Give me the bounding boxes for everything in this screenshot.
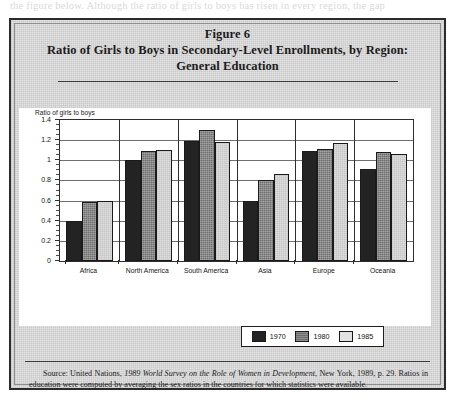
y-axis-minor-tick xyxy=(56,134,59,135)
bar-south-america-1980 xyxy=(199,130,215,261)
source-note: Source: United Nations, 1989 World Surve… xyxy=(29,368,428,390)
bar-africa-1980 xyxy=(82,202,98,261)
y-axis-minor-tick xyxy=(56,225,59,226)
bar-europe-1985 xyxy=(333,143,349,261)
figure-title-block: Figure 6 Ratio of Girls to Boys in Secon… xyxy=(11,26,444,82)
bar-europe-1970 xyxy=(302,151,318,261)
y-axis-tick-mark xyxy=(55,179,59,180)
y-axis-tick-label: 1.2 xyxy=(19,136,55,143)
y-axis-tick-label: 0.2 xyxy=(19,236,55,243)
legend-item-1970: 1970 xyxy=(252,331,286,342)
page-bleed-text: the figure below. Although the ratio of … xyxy=(10,0,445,14)
category-separator xyxy=(354,120,355,261)
title-divider xyxy=(58,81,398,82)
bar-asia-1985 xyxy=(274,174,290,261)
x-axis-category-label: South America xyxy=(184,267,228,274)
y-axis-minor-tick xyxy=(56,235,59,236)
legend-swatch-1980 xyxy=(295,331,309,342)
x-axis-category-label: Africa xyxy=(80,267,97,274)
y-axis-tick-label: 0.6 xyxy=(19,196,55,203)
bar-oceania-1980 xyxy=(376,152,392,261)
bar-south-america-1985 xyxy=(215,142,231,261)
y-axis-minor-tick xyxy=(56,124,59,125)
y-axis-tick-mark xyxy=(55,240,59,241)
legend-label-1985: 1985 xyxy=(357,332,373,341)
y-axis-tick-label: 0.8 xyxy=(19,176,55,183)
bar-oceania-1985 xyxy=(391,154,407,261)
y-axis-minor-tick xyxy=(56,144,59,145)
y-axis-tick-label: 0.4 xyxy=(19,216,55,223)
plot-area xyxy=(59,119,414,262)
bar-europe-1980 xyxy=(317,149,333,261)
chart-panel: Ratio of girls to boys 00.20.40.60.811.2… xyxy=(19,108,431,326)
chart-legend: 1970 1980 1985 xyxy=(241,326,384,347)
y-axis-minor-tick xyxy=(56,164,59,165)
legend-item-1980: 1980 xyxy=(295,331,329,342)
y-axis-minor-tick xyxy=(56,129,59,130)
y-axis-minor-tick xyxy=(56,205,59,206)
figure-title-line-2: General Education xyxy=(11,58,444,74)
x-axis-category-label: Asia xyxy=(258,267,271,274)
bar-north-america-1970 xyxy=(125,160,141,261)
y-axis-minor-tick xyxy=(56,190,59,191)
bar-oceania-1970 xyxy=(360,169,376,261)
y-axis-minor-tick xyxy=(56,230,59,231)
category-separator xyxy=(237,120,238,261)
figure-frame: Figure 6 Ratio of Girls to Boys in Secon… xyxy=(9,18,446,390)
x-axis-category-label: Oceania xyxy=(370,267,395,274)
x-axis-tick-mark xyxy=(118,260,119,264)
y-axis-minor-tick xyxy=(56,174,59,175)
legend-label-1970: 1970 xyxy=(270,332,286,341)
x-axis-tick-mark xyxy=(353,260,354,264)
x-axis-category-label: Europe xyxy=(313,267,335,274)
x-axis-tick-mark xyxy=(294,260,295,264)
bar-north-america-1985 xyxy=(156,150,172,261)
legend-label-1980: 1980 xyxy=(313,332,329,341)
source-divider xyxy=(25,361,430,362)
x-axis-tick-mark xyxy=(236,260,237,264)
category-separator xyxy=(119,120,120,261)
y-axis-tick-mark xyxy=(55,159,59,160)
y-axis-tick-label: 1 xyxy=(19,156,55,163)
category-separator xyxy=(178,120,179,261)
y-axis-minor-tick xyxy=(56,255,59,256)
y-axis-tick-mark xyxy=(55,220,59,221)
bar-asia-1970 xyxy=(243,201,259,261)
y-axis-minor-tick xyxy=(56,154,59,155)
y-axis-tick-mark xyxy=(55,119,59,120)
y-axis-minor-tick xyxy=(56,195,59,196)
y-axis-minor-tick xyxy=(56,169,59,170)
bar-africa-1970 xyxy=(66,221,82,261)
bar-asia-1980 xyxy=(258,180,274,261)
category-separator xyxy=(295,120,296,261)
source-publication-title: 1989 World Survey on the Role of Women i… xyxy=(124,369,315,378)
y-axis-minor-tick xyxy=(56,245,59,246)
y-axis-minor-tick xyxy=(56,210,59,211)
y-axis-tick-mark xyxy=(55,139,59,140)
x-axis-category-label: North America xyxy=(126,267,169,274)
legend-swatch-1985 xyxy=(339,331,353,342)
legend-item-1985: 1985 xyxy=(339,331,373,342)
y-axis-minor-tick xyxy=(56,184,59,185)
bar-south-america-1970 xyxy=(184,141,200,261)
y-axis-minor-tick xyxy=(56,250,59,251)
legend-swatch-1970 xyxy=(252,331,266,342)
y-axis-tick-label: 1.4 xyxy=(19,116,55,123)
y-axis-tick-mark xyxy=(55,260,59,261)
bar-north-america-1980 xyxy=(141,151,157,261)
y-axis-tick-label: 0 xyxy=(19,257,55,264)
x-axis-tick-mark xyxy=(177,260,178,264)
y-axis-minor-tick xyxy=(56,149,59,150)
bar-africa-1985 xyxy=(97,201,113,261)
source-prefix: Source: United Nations, xyxy=(43,369,124,378)
y-axis-tick-mark xyxy=(55,200,59,201)
y-axis-minor-tick xyxy=(56,215,59,216)
x-axis-tick-mark xyxy=(65,260,66,264)
figure-title-line-1: Ratio of Girls to Boys in Secondary-Leve… xyxy=(11,42,444,58)
figure-number: Figure 6 xyxy=(11,26,444,42)
